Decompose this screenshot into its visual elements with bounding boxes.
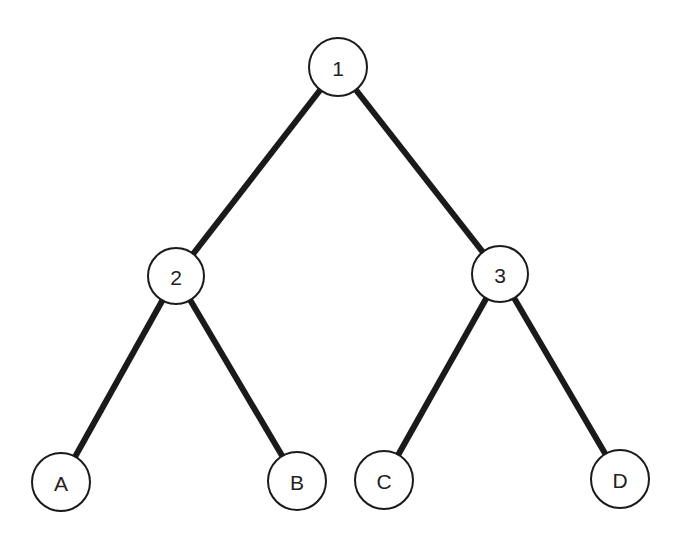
node-d: D — [591, 450, 649, 508]
node-label: B — [290, 471, 304, 494]
edge-1-3 — [338, 67, 500, 274]
node-2: 2 — [148, 248, 204, 304]
edge-3-c — [384, 274, 500, 480]
node-3: 3 — [472, 246, 528, 302]
edge-1-2 — [176, 67, 338, 276]
node-label: D — [612, 469, 627, 492]
node-label: C — [376, 470, 391, 493]
node-a: A — [32, 453, 90, 511]
node-b: B — [268, 452, 326, 510]
node-1: 1 — [309, 38, 367, 96]
node-label: A — [54, 472, 68, 495]
edge-2-b — [176, 276, 297, 481]
node-label: 1 — [332, 57, 344, 80]
node-label: 3 — [494, 264, 506, 287]
edge-3-d — [500, 274, 620, 479]
edges — [61, 67, 620, 482]
node-c: C — [355, 451, 413, 509]
tree-diagram: 1 2 3 A B C D — [0, 0, 681, 542]
node-label: 2 — [170, 266, 182, 289]
edge-2-a — [61, 276, 176, 482]
nodes: 1 2 3 A B C D — [32, 38, 649, 511]
